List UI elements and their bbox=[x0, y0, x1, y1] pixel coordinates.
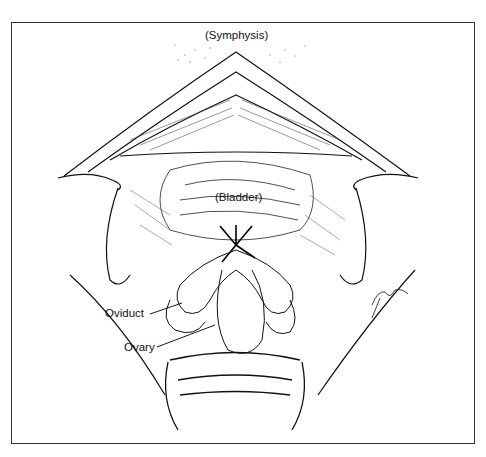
label-bladder: (Bladder) bbox=[215, 191, 262, 203]
speculum-blade bbox=[166, 353, 305, 431]
abdominal-wall-flap bbox=[58, 52, 418, 190]
surgical-illustration bbox=[0, 0, 486, 457]
side-retractors bbox=[70, 188, 415, 395]
flap-hatching bbox=[130, 100, 340, 150]
stipple-shading bbox=[174, 44, 305, 62]
label-oviduct: Oviduct bbox=[105, 307, 144, 319]
label-symphysis: (Symphysis) bbox=[205, 29, 268, 41]
instrument-point bbox=[220, 225, 255, 262]
label-ovary: Ovary bbox=[124, 341, 155, 353]
uterus-and-adnexa bbox=[166, 250, 295, 353]
